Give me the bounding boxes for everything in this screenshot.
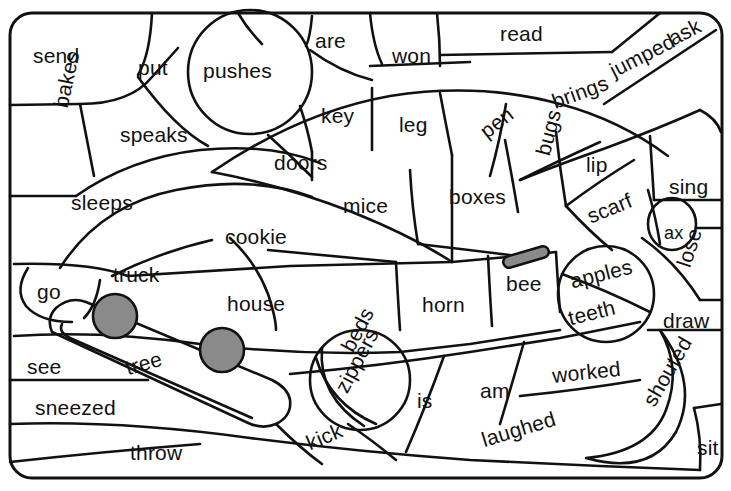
word-won[interactable]: won xyxy=(392,45,431,66)
word-read[interactable]: read xyxy=(500,23,543,44)
word-house[interactable]: house xyxy=(227,293,285,314)
word-bee[interactable]: bee xyxy=(506,273,542,294)
word-pushes[interactable]: pushes xyxy=(203,60,272,81)
word-sit[interactable]: sit xyxy=(697,437,719,458)
word-go[interactable]: go xyxy=(37,281,61,302)
word-speaks[interactable]: speaks xyxy=(120,124,188,145)
word-doors[interactable]: doors xyxy=(274,152,328,173)
word-sneezed[interactable]: sneezed xyxy=(35,397,116,418)
word-draw[interactable]: draw xyxy=(663,310,709,331)
front-wheel xyxy=(93,294,137,338)
word-am[interactable]: am xyxy=(480,380,510,401)
outer-frame xyxy=(10,13,722,478)
word-throw[interactable]: throw xyxy=(130,442,182,463)
word-see[interactable]: see xyxy=(27,356,61,377)
word-truck[interactable]: truck xyxy=(113,264,160,285)
worksheet-canvas: sendputpushesarewonreadaskjumpedbringsba… xyxy=(0,0,731,491)
word-mice[interactable]: mice xyxy=(343,195,388,216)
word-cookie[interactable]: cookie xyxy=(225,226,287,247)
word-sing[interactable]: sing xyxy=(669,176,708,197)
word-key[interactable]: key xyxy=(321,105,354,126)
word-is[interactable]: is xyxy=(417,390,433,411)
word-boxes[interactable]: boxes xyxy=(449,186,506,207)
word-put[interactable]: put xyxy=(138,57,168,78)
word-are[interactable]: are xyxy=(315,30,346,51)
word-leg[interactable]: leg xyxy=(399,114,428,135)
word-sleeps[interactable]: sleeps xyxy=(71,192,133,213)
word-lip[interactable]: lip xyxy=(586,154,608,175)
word-horn[interactable]: horn xyxy=(422,294,465,315)
rear-wheel xyxy=(200,328,244,372)
